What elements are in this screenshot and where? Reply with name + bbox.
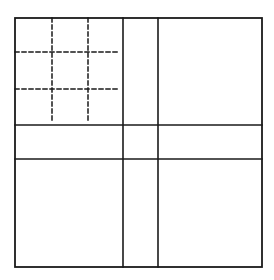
grid-diagram bbox=[0, 0, 274, 280]
dashed-subgrid bbox=[15, 18, 120, 122]
